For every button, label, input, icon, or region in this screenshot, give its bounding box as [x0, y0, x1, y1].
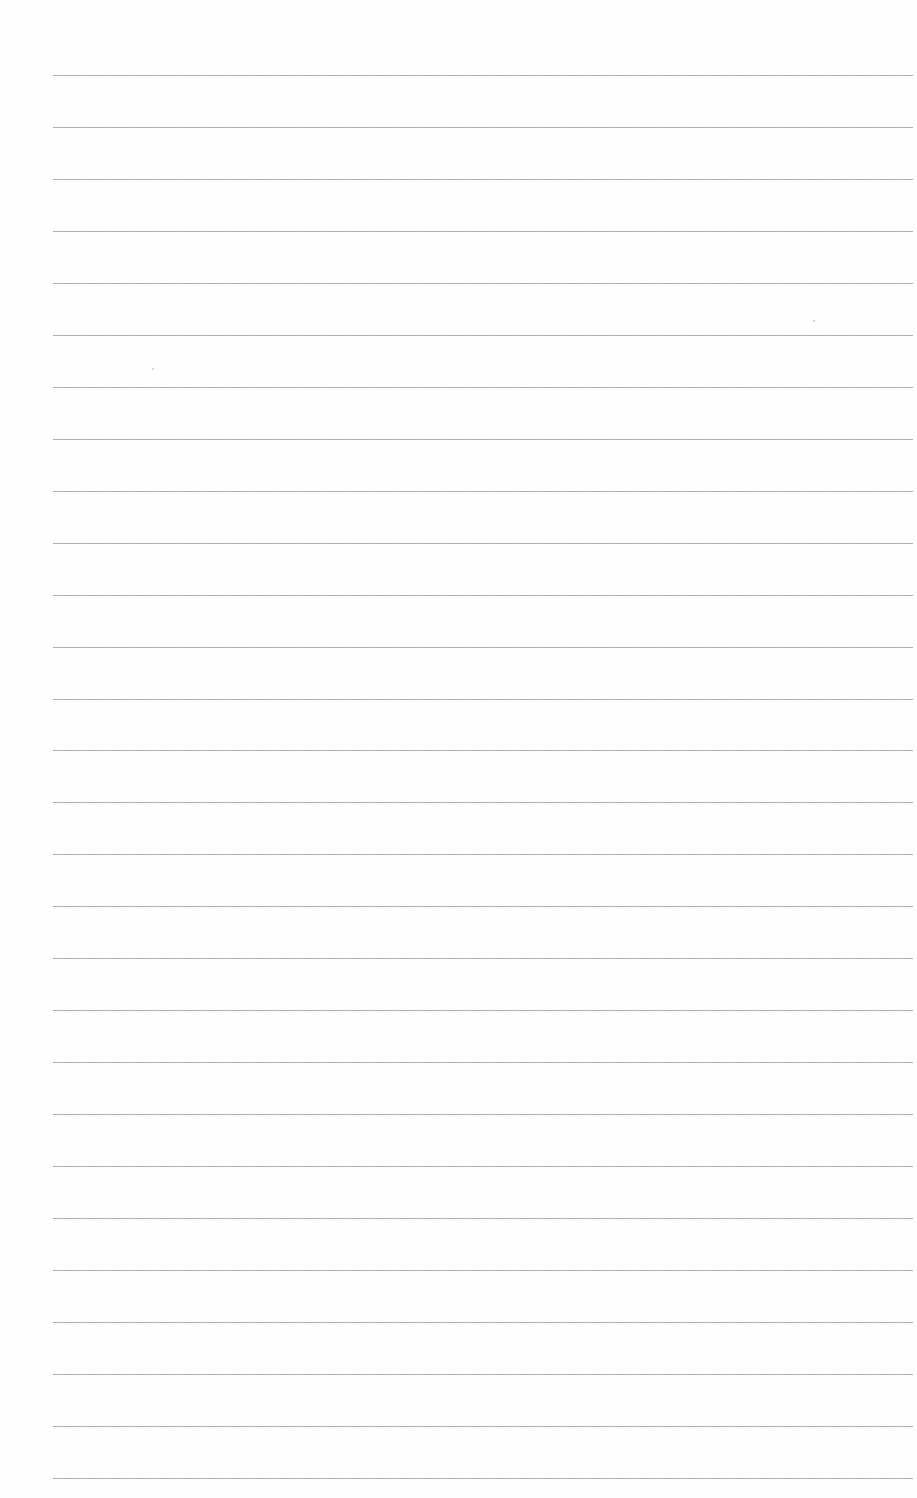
- ruled-line: [53, 127, 913, 128]
- ruled-line: [53, 335, 913, 336]
- ruled-line: [53, 283, 913, 284]
- ruled-line: [53, 543, 913, 544]
- ruled-line: [53, 802, 913, 803]
- ruled-line: [53, 1218, 913, 1219]
- ruled-line: [53, 1270, 913, 1271]
- dust-speck: [152, 368, 154, 370]
- ruled-line: [53, 179, 913, 180]
- ruled-line: [53, 854, 913, 855]
- ruled-line: [53, 1010, 913, 1011]
- ruled-line: [53, 595, 913, 596]
- ruled-line: [53, 1374, 913, 1375]
- ruled-line: [53, 1166, 913, 1167]
- ruled-line: [53, 699, 913, 700]
- ruled-line: [53, 75, 913, 76]
- lined-paper-page: [0, 0, 917, 1498]
- ruled-line: [53, 906, 913, 907]
- dust-speck: [813, 320, 815, 322]
- ruled-line: [53, 647, 913, 648]
- ruled-line: [53, 1322, 913, 1323]
- ruled-line: [53, 439, 913, 440]
- ruled-line: [53, 750, 913, 751]
- ruled-line: [53, 1426, 913, 1427]
- ruled-line: [53, 958, 913, 959]
- ruled-line: [53, 1478, 913, 1479]
- ruled-line: [53, 231, 913, 232]
- ruled-line: [53, 491, 913, 492]
- ruled-line: [53, 1062, 913, 1063]
- ruled-line: [53, 1114, 913, 1115]
- ruled-line: [53, 387, 913, 388]
